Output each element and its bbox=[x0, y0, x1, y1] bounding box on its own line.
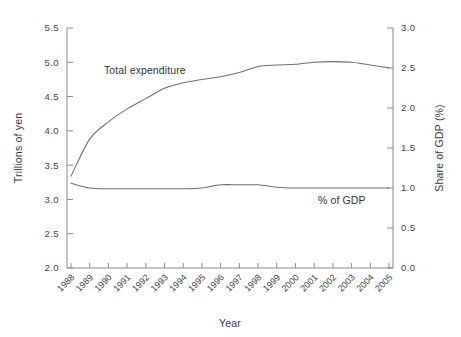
x-axis-title: Year bbox=[219, 317, 241, 329]
left-tick-label: 5.0 bbox=[45, 57, 59, 68]
series-label-total-expenditure: Total expenditure bbox=[104, 64, 186, 76]
right-axis-title: Share of GDP (%) bbox=[433, 104, 445, 192]
x-tick-label: 1992 bbox=[130, 272, 151, 293]
right-tick-label: 2.5 bbox=[401, 62, 415, 73]
right-axis-ticks: 0.00.51.01.52.02.53.0 bbox=[387, 22, 415, 273]
x-tick-label: 2001 bbox=[298, 272, 319, 293]
line-chart: 2.02.53.03.54.04.55.05.5 0.00.51.01.52.0… bbox=[0, 0, 461, 337]
left-tick-label: 3.5 bbox=[45, 160, 59, 171]
left-tick-label: 3.0 bbox=[45, 194, 59, 205]
right-tick-label: 0.0 bbox=[401, 262, 415, 273]
right-tick-label: 0.5 bbox=[401, 222, 415, 233]
x-tick-label: 1997 bbox=[224, 272, 245, 293]
chart-figure: 2.02.53.03.54.04.55.05.5 0.00.51.01.52.0… bbox=[0, 0, 461, 337]
x-tick-label: 1989 bbox=[74, 272, 95, 293]
x-tick-label: 1991 bbox=[111, 272, 132, 293]
left-axis-ticks: 2.02.53.03.54.04.55.05.5 bbox=[45, 22, 73, 273]
x-tick-label: 2002 bbox=[317, 272, 338, 293]
x-tick-label: 2000 bbox=[280, 272, 301, 293]
x-tick-label: 1995 bbox=[186, 272, 207, 293]
series-layer bbox=[71, 62, 389, 189]
left-tick-label: 2.0 bbox=[45, 262, 59, 273]
x-tick-label: 1988 bbox=[55, 272, 76, 293]
left-tick-label: 2.5 bbox=[45, 228, 59, 239]
x-tick-label: 1998 bbox=[242, 272, 263, 293]
x-tick-label: 1993 bbox=[149, 272, 170, 293]
x-tick-label: 2004 bbox=[354, 272, 375, 293]
x-tick-label: 1990 bbox=[93, 272, 114, 293]
series-path-total-expenditure bbox=[71, 62, 389, 177]
left-tick-label: 4.5 bbox=[45, 91, 59, 102]
right-tick-label: 2.0 bbox=[401, 102, 415, 113]
x-tick-label: 1999 bbox=[261, 272, 282, 293]
right-tick-label: 1.5 bbox=[401, 142, 415, 153]
x-tick-label: 2005 bbox=[373, 272, 394, 293]
right-tick-label: 3.0 bbox=[401, 22, 415, 33]
left-tick-label: 5.5 bbox=[45, 22, 59, 33]
left-axis-title: Trillions of yen bbox=[12, 113, 24, 184]
x-tick-label: 2003 bbox=[336, 272, 357, 293]
x-tick-label: 1996 bbox=[205, 272, 226, 293]
left-tick-label: 4.0 bbox=[45, 125, 59, 136]
right-tick-label: 1.0 bbox=[401, 182, 415, 193]
series-label-percent-of-gdp: % of GDP bbox=[318, 194, 365, 206]
x-tick-label: 1994 bbox=[167, 272, 188, 293]
series-path-of-gdp bbox=[71, 183, 389, 189]
